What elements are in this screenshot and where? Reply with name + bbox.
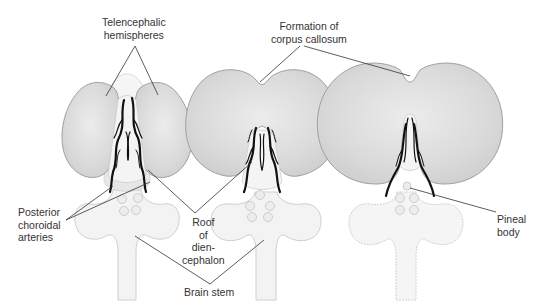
brain-development-diagram [0, 0, 540, 306]
brainstem-3 [349, 192, 463, 300]
label-posterior-choroidal-arteries: Posterior choroidal arteries [18, 206, 61, 244]
label-pineal-body: Pineal body [497, 213, 526, 238]
label-brain-stem: Brain stem [184, 286, 234, 299]
label-telencephalic-hemispheres: Telencephalic hemispheres [102, 16, 166, 41]
label-formation-of-corpus-callosum: Formation of corpus callosum [271, 20, 347, 45]
brainstem-1 [75, 190, 179, 300]
label-roof-of-diencephalon: Roof of dien- cephalon [182, 216, 225, 266]
stage-1 [62, 74, 192, 300]
stage-3 [317, 63, 502, 300]
